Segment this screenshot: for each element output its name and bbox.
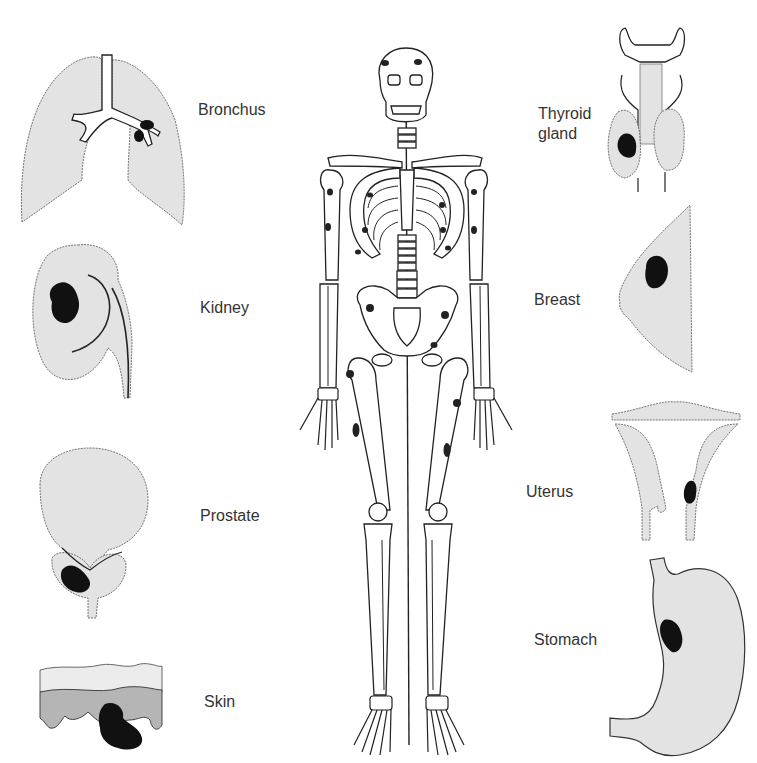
- bronchus-tumor-2: [134, 130, 144, 142]
- label-uterus: Uterus: [526, 482, 573, 502]
- prostate-illustration: [0, 440, 280, 620]
- left-patella: [369, 503, 387, 521]
- sternum: [400, 170, 414, 230]
- femur-metastasis-4: [444, 443, 451, 457]
- thyroid-illustration: [500, 0, 757, 200]
- right-humerus: [465, 170, 487, 280]
- femur-metastasis-1: [346, 370, 354, 378]
- rib-metastasis-5: [355, 250, 361, 255]
- rib-metastasis-3: [362, 227, 368, 233]
- left-clavicle: [328, 155, 402, 168]
- pelvis-metastasis-3: [431, 342, 438, 348]
- uterus-illustration: [500, 390, 757, 550]
- humerus-metastasis-3: [471, 189, 477, 195]
- stomach-illustration: [500, 550, 757, 763]
- label-stomach: Stomach: [534, 630, 597, 650]
- right-foot: [426, 696, 464, 755]
- skin-panel: Skin: [0, 640, 280, 763]
- pelvis-metastasis-2: [441, 311, 449, 319]
- breast-panel: Breast: [500, 200, 757, 380]
- kidney-panel: Kidney: [0, 240, 280, 400]
- kidney-illustration: [0, 240, 280, 400]
- bronchus-panel: Bronchus: [0, 0, 280, 240]
- label-prostate: Prostate: [200, 506, 260, 526]
- bronchus-tumor: [140, 120, 154, 130]
- thyroid-panel: Thyroid gland: [500, 0, 757, 200]
- pelvis-metastasis-1: [366, 304, 374, 312]
- left-tibia: [364, 524, 392, 695]
- skin-illustration: [0, 640, 280, 763]
- thyroid-right-lobe: [654, 109, 684, 170]
- rib-metastasis-6: [445, 246, 451, 251]
- humerus-metastasis-2: [325, 223, 331, 231]
- right-patella: [429, 503, 447, 521]
- humerus-metastasis-4: [471, 226, 477, 234]
- left-hand: [300, 388, 338, 450]
- label-bronchus: Bronchus: [198, 100, 266, 120]
- label-kidney: Kidney: [200, 298, 249, 318]
- rib-metastasis-2: [439, 202, 445, 208]
- uterus-left-wall: [615, 424, 666, 540]
- right-tibia: [424, 524, 452, 695]
- left-foot: [354, 696, 392, 755]
- left-forearm: [320, 284, 338, 388]
- lung-illustration: [0, 0, 280, 240]
- right-clavicle: [412, 155, 482, 168]
- femur-metastasis-3: [453, 399, 461, 407]
- breast-outline: [619, 205, 692, 372]
- skull-metastasis-1: [381, 60, 389, 66]
- left-humerus: [321, 170, 343, 280]
- label-thyroid-line2: gland: [538, 124, 577, 144]
- skeleton-illustration: [290, 40, 520, 763]
- skeleton-panel: [290, 40, 520, 763]
- label-breast: Breast: [534, 290, 580, 310]
- label-skin: Skin: [204, 692, 235, 712]
- right-femur: [426, 358, 468, 510]
- hyoid: [620, 28, 685, 62]
- prostate-panel: Prostate: [0, 440, 280, 620]
- stomach-outline: [610, 558, 745, 756]
- rib-metastasis-4: [440, 227, 446, 233]
- stomach-panel: Stomach: [500, 550, 757, 763]
- skull-metastasis-2: [414, 59, 422, 65]
- femur-metastasis-2: [353, 423, 360, 437]
- humerus-metastasis-1: [327, 189, 333, 196]
- uterus-panel: Uterus: [500, 390, 757, 550]
- label-thyroid-line1: Thyroid: [538, 104, 591, 124]
- rib-metastasis-1: [367, 193, 373, 198]
- uterus-fundus: [612, 402, 740, 420]
